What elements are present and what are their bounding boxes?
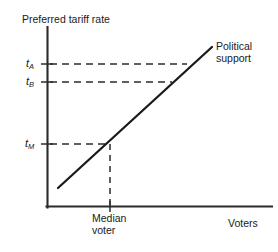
- y-tick-label-ta-sub: A: [29, 62, 34, 71]
- figure-canvas: Preferred tariff rate Voters Politicalsu…: [0, 0, 278, 252]
- x-axis-label: Voters: [228, 218, 258, 230]
- median-voter-label-line2: voter: [92, 224, 115, 236]
- chart-plot-area: [0, 0, 278, 252]
- y-tick-label-tm-sub: M: [28, 142, 34, 151]
- y-tick-label-tb-sub: B: [29, 80, 34, 89]
- y-tick-label-tb: tB: [26, 75, 34, 89]
- median-voter-label-line1: Median: [92, 212, 126, 224]
- y-tick-label-tm: tM: [25, 137, 34, 151]
- y-tick-label-ta: tA: [26, 57, 34, 71]
- y-axis-label: Preferred tariff rate: [22, 14, 110, 26]
- political-support-label-line2: support: [216, 52, 251, 64]
- political-support-label: Politicalsupport: [216, 41, 252, 65]
- political-support-label-line1: Political: [216, 40, 252, 52]
- political-support-line: [58, 47, 212, 188]
- median-voter-label: Medianvoter: [92, 213, 126, 237]
